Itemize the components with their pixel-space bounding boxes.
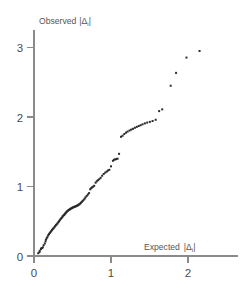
x-tick-label-0: 0 [31, 267, 37, 279]
scatter-plot-canvas: 0 1 2 0 1 2 3 Observed|Δi| Expected|Δi| [0, 0, 244, 296]
data-point [123, 133, 125, 135]
data-point [142, 123, 144, 125]
data-point [136, 126, 138, 128]
data-point [185, 57, 187, 59]
y-axis-title-symbol-end: | [89, 16, 91, 26]
data-point [44, 242, 46, 244]
data-point [108, 169, 110, 171]
data-point [149, 121, 151, 123]
data-point [144, 122, 146, 124]
data-point [88, 192, 90, 194]
data-point [134, 127, 136, 129]
data-point [39, 250, 41, 252]
y-axis-title-symbol: |Δ [79, 16, 87, 26]
data-point [101, 175, 103, 177]
data-point [155, 119, 157, 121]
data-point [117, 158, 119, 160]
x-tick-label-1: 1 [108, 267, 114, 279]
data-point [152, 120, 154, 122]
data-point [110, 165, 112, 167]
data-points-layer [37, 50, 200, 254]
data-point [127, 131, 129, 133]
data-point [122, 135, 124, 137]
y-axis-title: Observed|Δi| [39, 16, 91, 27]
data-point [140, 124, 142, 126]
y-tick-label-0: 0 [17, 251, 23, 263]
data-point [93, 185, 95, 187]
data-point [42, 246, 44, 248]
x-axis-title: Expected|Δi| [144, 242, 195, 253]
x-tick-label-2: 2 [185, 267, 191, 279]
data-point [118, 153, 120, 155]
data-point [158, 110, 160, 112]
data-point [46, 236, 48, 238]
data-point [170, 85, 172, 87]
x-axis-title-symbol: |Δ [184, 242, 192, 252]
x-axis-title-word: Expected [144, 242, 180, 252]
y-tick-label-2: 2 [17, 112, 23, 124]
y-tick-label-1: 1 [17, 181, 23, 193]
y-axis-title-word: Observed [39, 16, 76, 26]
data-point [138, 125, 140, 127]
qq-plot-figure: 0 1 2 0 1 2 3 Observed|Δi| Expected|Δi| [0, 0, 244, 296]
data-point [45, 240, 47, 242]
data-point [199, 50, 201, 52]
y-tick-label-3: 3 [17, 42, 23, 54]
data-point [43, 244, 45, 246]
data-point [132, 128, 134, 130]
data-point [146, 122, 148, 124]
data-point [161, 108, 163, 110]
data-point [100, 177, 102, 179]
data-point [175, 72, 177, 74]
data-point [130, 129, 132, 131]
x-axis-title-symbol-end: | [193, 242, 195, 252]
